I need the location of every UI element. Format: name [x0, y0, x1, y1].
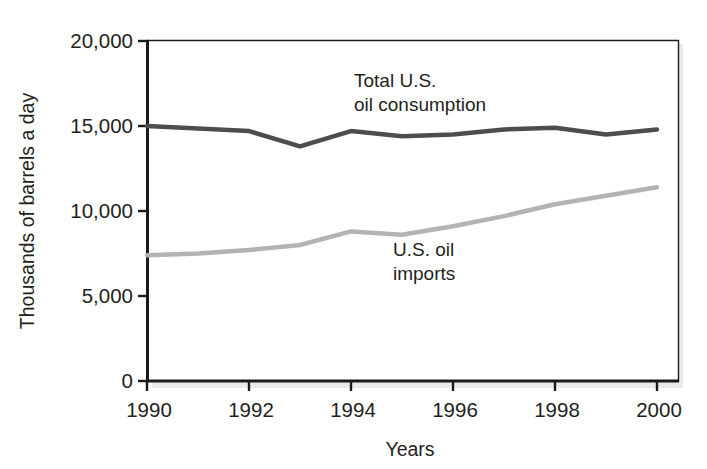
x-axis-title: Years — [385, 438, 434, 460]
x-tick-label-1990: 1990 — [126, 398, 172, 421]
x-tick-label-1994: 1994 — [330, 398, 376, 421]
y-tick-label-5000: 5,000 — [82, 284, 133, 307]
consumption-annotation-line2: oil consumption — [354, 94, 486, 115]
imports-annotation-line1: U.S. oil — [393, 239, 454, 260]
x-tick-label-1992: 1992 — [228, 398, 274, 421]
y-tick-label-15000: 15,000 — [70, 114, 133, 137]
y-axis-title: Thousands of barrels a day — [16, 93, 38, 330]
chart-figure: 20,000 15,000 10,000 5,000 0 1990 1992 1… — [0, 0, 707, 469]
line-chart: 20,000 15,000 10,000 5,000 0 1990 1992 1… — [0, 0, 707, 469]
x-tick-label-2000: 2000 — [636, 398, 682, 421]
consumption-annotation-line1: Total U.S. — [354, 70, 436, 91]
y-tick-label-10000: 10,000 — [70, 199, 133, 222]
y-tick-label-0: 0 — [122, 369, 133, 392]
x-tick-label-1996: 1996 — [432, 398, 478, 421]
y-tick-labels: 20,000 15,000 10,000 5,000 0 — [70, 29, 133, 392]
x-tick-label-1998: 1998 — [534, 398, 580, 421]
y-tick-label-20000: 20,000 — [70, 29, 133, 52]
x-tick-labels: 1990 1992 1994 1996 1998 2000 — [126, 398, 682, 421]
plot-background — [147, 40, 679, 382]
imports-annotation-line2: imports — [393, 263, 455, 284]
